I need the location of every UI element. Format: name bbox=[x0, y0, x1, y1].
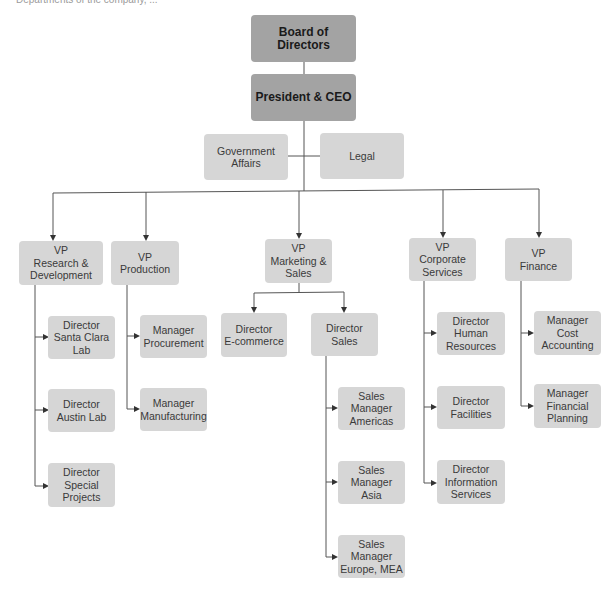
sales-manager-europe-mea-box: Sales Manager Europe, MEA bbox=[338, 535, 405, 578]
director-sales-box: Director Sales bbox=[311, 313, 378, 356]
government-affairs-box: Government Affairs bbox=[204, 134, 288, 180]
vp-finance-box: VP Finance bbox=[505, 238, 572, 281]
manager-cost-accounting-box: Manager Cost Accounting bbox=[534, 311, 601, 355]
board-of-directors-box: Board of Directors bbox=[251, 15, 356, 62]
vp-marketing-sales-box: VP Marketing & Sales bbox=[265, 239, 332, 283]
sales-manager-asia-box: Sales Manager Asia bbox=[338, 461, 405, 504]
manager-financial-planning-box: Manager Financial Planning bbox=[534, 384, 601, 428]
director-austin-lab-box: Director Austin Lab bbox=[48, 389, 115, 432]
manager-manufacturing-box: Manager Manufacturing bbox=[140, 388, 207, 431]
director-santa-clara-lab-box: Director Santa Clara Lab bbox=[48, 316, 115, 359]
director-facilities-box: Director Facilities bbox=[437, 386, 505, 429]
manager-procurement-box: Manager Procurement bbox=[140, 315, 207, 358]
director-human-resources-box: Director Human Resources bbox=[437, 312, 505, 355]
vp-production-box: VP Production bbox=[111, 241, 179, 285]
vp-research-development-box: VP Research & Development bbox=[19, 241, 103, 285]
director-information-services-box: Director Information Services bbox=[437, 460, 505, 504]
president-ceo-box: President & CEO bbox=[251, 74, 356, 121]
vp-corporate-services-box: VP Corporate Services bbox=[409, 238, 476, 281]
sales-manager-americas-box: Sales Manager Americas bbox=[338, 387, 405, 430]
legal-box: Legal bbox=[320, 133, 404, 179]
director-e-commerce-box: Director E-commerce bbox=[221, 313, 287, 357]
director-special-projects-box: Director Special Projects bbox=[48, 463, 115, 507]
